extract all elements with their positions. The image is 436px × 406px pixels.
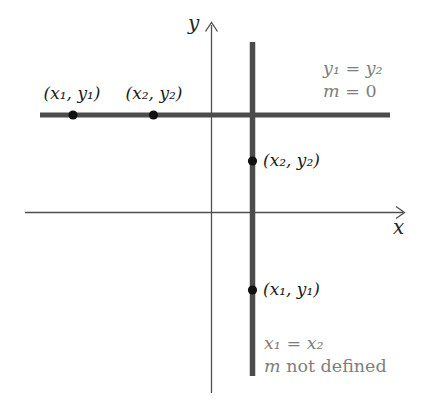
vertical-line-lower-point-label: (x₁, y₁) (263, 279, 320, 299)
horizontal-line-point1-dot (68, 110, 77, 119)
slope-diagram: y x (x₁, y₁) (x₂, y₂) (x₂, y₂) (x₁, y₁) … (0, 0, 436, 406)
horizontal-line-point1-label: (x₁, y₁) (44, 83, 101, 103)
horizontal-line-annotation: y₁ = y₂ m = 0 (323, 57, 383, 103)
vertical-line-upper-point-dot (248, 156, 257, 165)
vertical-annotation-slope: m not defined (264, 355, 387, 378)
vertical-line-annotation: x₁ = x₂ m not defined (264, 332, 387, 378)
horizontal-annotation-slope: m = 0 (323, 80, 383, 103)
horizontal-line-point2-label: (x₂, y₂) (126, 83, 183, 103)
vertical-line-lower-point-dot (248, 285, 257, 294)
x-axis-label: x (393, 216, 404, 238)
horizontal-annotation-equation: y₁ = y₂ (323, 57, 383, 80)
vertical-line-upper-point-label: (x₂, y₂) (263, 150, 320, 170)
vertical-annotation-equation: x₁ = x₂ (264, 332, 387, 355)
y-axis-label: y (188, 12, 199, 34)
horizontal-line-point2-dot (149, 110, 158, 119)
